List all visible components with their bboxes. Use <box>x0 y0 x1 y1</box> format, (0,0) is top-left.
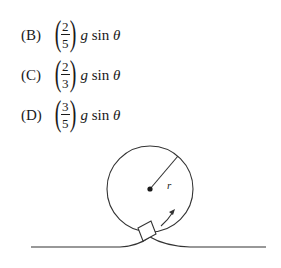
radius-line <box>150 156 178 189</box>
block <box>138 221 156 241</box>
radius-label: r <box>167 179 172 191</box>
track-left <box>31 237 150 247</box>
track-right <box>150 237 266 247</box>
arrowhead-icon <box>169 209 175 215</box>
loop-the-loop-diagram: r <box>0 0 281 268</box>
center-dot <box>147 186 152 191</box>
motion-arrow-path <box>161 212 173 226</box>
